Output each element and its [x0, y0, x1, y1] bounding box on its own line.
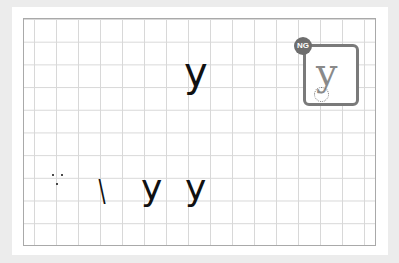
- ng-example-glyph: y: [316, 53, 337, 91]
- glyph-y-step-2: y: [185, 170, 206, 206]
- dot-mark: [56, 183, 58, 185]
- glyph-top-y: y: [184, 52, 208, 92]
- dot-mark: [61, 174, 63, 176]
- glyph-y-step-1: y: [141, 170, 162, 206]
- error-highlight-circle-icon: [314, 87, 329, 102]
- glyph-first-stroke: \: [99, 176, 106, 206]
- ng-badge: NG: [294, 37, 312, 55]
- glyph-dot-marks: [52, 174, 66, 188]
- dot-mark: [52, 174, 54, 176]
